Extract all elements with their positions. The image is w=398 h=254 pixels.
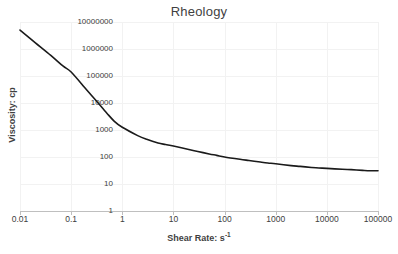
y-axis-tick-label: 100: [100, 152, 113, 161]
gridline-vertical: [327, 22, 328, 211]
gridline-vertical: [276, 22, 277, 211]
y-axis-tick-label: 1: [109, 206, 113, 215]
gridline-horizontal: [20, 22, 378, 23]
plot-area: [20, 22, 378, 211]
x-axis-tick-label: 100000: [348, 214, 398, 224]
y-axis-tick-label: 1000: [95, 125, 113, 134]
gridline-vertical: [71, 22, 72, 211]
y-axis-tick-label: 10000000: [77, 17, 113, 26]
gridline-vertical: [20, 22, 21, 211]
chart-title: Rheology: [0, 4, 398, 19]
gridline-horizontal: [20, 49, 378, 50]
rheology-chart: Rheology 0.010.1110100100010000100000 11…: [0, 0, 398, 254]
gridline-vertical: [122, 22, 123, 211]
gridline-horizontal: [20, 157, 378, 158]
x-axis-line: [20, 211, 378, 212]
gridline-horizontal: [20, 103, 378, 104]
y-axis-tick-label: 10: [104, 179, 113, 188]
x-axis-title-text: Shear Rate: s: [167, 233, 225, 243]
gridline-horizontal: [20, 184, 378, 185]
gridline-vertical: [225, 22, 226, 211]
gridline-horizontal: [20, 130, 378, 131]
gridline-vertical: [378, 22, 379, 211]
x-axis-title-superscript: -1: [225, 231, 231, 238]
x-axis-title: Shear Rate: s-1: [0, 233, 398, 243]
gridline-vertical: [173, 22, 174, 211]
y-axis-tick-label: 100000: [86, 71, 113, 80]
y-axis-tick-label: 10000: [91, 98, 113, 107]
y-axis-tick-label: 1000000: [82, 44, 113, 53]
gridline-horizontal: [20, 76, 378, 77]
y-axis-title: Viscosity: cp: [7, 55, 17, 175]
